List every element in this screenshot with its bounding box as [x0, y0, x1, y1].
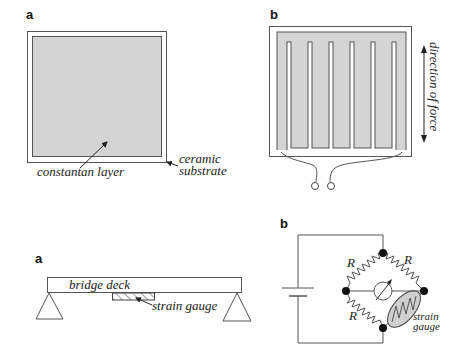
right-support	[223, 293, 251, 321]
arrow-down-icon	[421, 135, 427, 143]
panel-label-b-bottom: b	[280, 216, 288, 231]
node-top	[379, 249, 387, 257]
constantan-layer	[33, 37, 162, 157]
resistor-label-top-left: R	[346, 255, 355, 270]
arrow-up-icon	[421, 45, 427, 53]
force-direction-label: direction of force	[427, 42, 442, 132]
panel-label-a-top: a	[26, 7, 34, 22]
node-bottom	[379, 324, 387, 332]
constantan-layer-label: constantan layer	[37, 164, 125, 179]
terminal-left	[312, 183, 319, 190]
left-support	[36, 293, 63, 319]
node-right	[420, 287, 428, 295]
substrate-label: substrate	[179, 163, 227, 178]
bottom-panel-a: a bridge deck strain gauge	[35, 251, 251, 321]
bridge-deck-label: bridge deck	[69, 277, 130, 292]
wire-bottom	[298, 296, 383, 343]
top-panel-a: a constantan layer ceramic substrate	[26, 7, 227, 179]
resistor-label-top-right: R	[403, 252, 412, 267]
top-panel-b: b direction of force	[270, 7, 443, 190]
bottom-panel-b: b R R R strain gauge	[280, 216, 440, 343]
strain-gauge-block	[113, 293, 155, 300]
resistor-label-bottom-left: R	[348, 308, 357, 323]
gauge-label: gauge	[413, 320, 440, 332]
node-left	[342, 287, 350, 295]
panel-label-a-bottom: a	[35, 251, 43, 266]
terminal-right	[328, 183, 335, 190]
strain-gauge-figure: a constantan layer ceramic substrate b d…	[0, 0, 459, 348]
serpentine-foil	[282, 37, 401, 150]
substrate-arrow	[167, 162, 178, 166]
panel-label-b-top: b	[270, 7, 278, 22]
strain-gauge-label: strain gauge	[152, 298, 218, 313]
